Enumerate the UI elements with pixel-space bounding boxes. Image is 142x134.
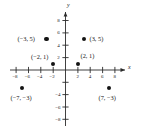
y-tick-label-2: 2 xyxy=(57,55,59,60)
x-tick-label-4: 4 xyxy=(89,74,91,79)
data-point[interactable] xyxy=(44,37,48,41)
coordinate-plane-figure: x y −8 −6 −4 −2 2 4 6 8 8 6 4 2 −4 −6 −8… xyxy=(0,0,142,134)
x-tick-label-6: 6 xyxy=(101,74,103,79)
x-tick-label--2: −2 xyxy=(50,74,55,79)
y-axis-group xyxy=(64,12,68,126)
data-point-label: (−7, −3) xyxy=(11,95,32,101)
x-tick-label--6: −6 xyxy=(25,74,30,79)
y-axis-label: y xyxy=(67,2,70,8)
y-axis-arrow-icon xyxy=(64,12,68,17)
x-tick-label--8: −8 xyxy=(12,74,17,79)
x-tick-label-8: 8 xyxy=(113,74,115,79)
x-axis-label: x xyxy=(128,64,131,70)
data-point-label: (−3, 5) xyxy=(18,36,35,42)
x-axis-arrow-icon xyxy=(121,68,126,72)
y-tick-label-6: 6 xyxy=(57,30,59,35)
x-tick-label-2: 2 xyxy=(76,74,78,79)
y-tick-label--6: −6 xyxy=(55,105,60,110)
data-point-label: (2, 1) xyxy=(81,53,95,59)
x-axis-group xyxy=(10,68,125,72)
axes-svg xyxy=(0,0,142,134)
y-tick-label-8: 8 xyxy=(57,18,59,23)
data-point-label: (3, 5) xyxy=(90,36,104,42)
y-tick-label--4: −4 xyxy=(55,92,60,97)
data-point-label: (7, −3) xyxy=(99,95,116,101)
data-point-label: (−2, 1) xyxy=(31,54,48,60)
x-tick-label--4: −4 xyxy=(37,74,42,79)
y-tick-label-4: 4 xyxy=(57,43,59,48)
y-tick-label--8: −8 xyxy=(55,117,60,122)
data-point[interactable] xyxy=(51,62,55,66)
data-point[interactable] xyxy=(76,62,80,66)
